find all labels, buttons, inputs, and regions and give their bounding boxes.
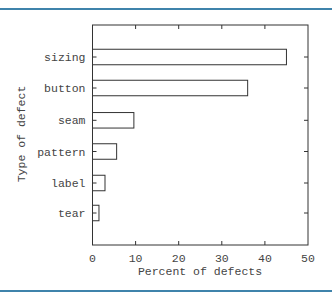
x-axis-label: Percent of defects — [138, 265, 262, 278]
plot-area: 01020304050sizingbuttonseampatternlabelt… — [37, 25, 315, 265]
y-tick-label-tear: tear — [58, 207, 86, 220]
bar-seam — [93, 113, 134, 129]
y-tick-label-label: label — [51, 177, 86, 190]
bar-button — [93, 80, 248, 96]
bar-sizing — [93, 49, 287, 65]
x-tick-label: 40 — [258, 252, 272, 265]
y-tick-label-seam: seam — [58, 114, 86, 127]
x-tick-label: 20 — [172, 252, 186, 265]
y-tick-label-sizing: sizing — [44, 51, 85, 64]
y-tick-label-pattern: pattern — [37, 146, 85, 159]
x-tick-label: 30 — [215, 252, 229, 265]
y-tick-label-button: button — [44, 82, 85, 95]
x-tick-label: 50 — [301, 252, 315, 265]
y-axis-label: Type of defect — [15, 86, 28, 183]
bar-chart: 01020304050sizingbuttonseampatternlabelt… — [0, 0, 332, 293]
x-tick-label: 10 — [129, 252, 143, 265]
x-tick-label: 0 — [89, 252, 96, 265]
